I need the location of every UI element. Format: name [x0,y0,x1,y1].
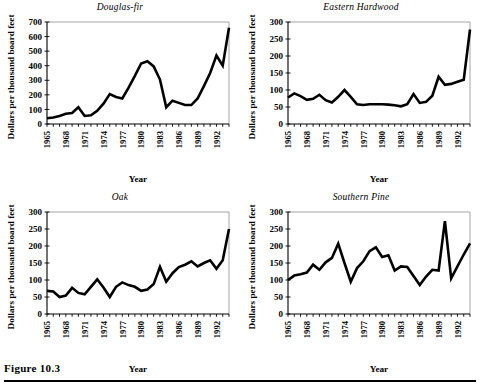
svg-text:1983: 1983 [155,321,165,338]
svg-text:1989: 1989 [434,131,444,148]
svg-text:1989: 1989 [193,131,203,148]
svg-text:1986: 1986 [174,130,184,148]
svg-text:1980: 1980 [377,321,387,338]
chart-panel-eastern-hardwood: Eastern Hardwood 05010015020025030019651… [241,0,481,190]
svg-text:1980: 1980 [136,321,146,338]
svg-text:Year: Year [370,174,388,184]
svg-text:150: 150 [270,258,284,268]
svg-text:1974: 1974 [99,320,109,338]
svg-text:0: 0 [279,309,284,319]
svg-text:1983: 1983 [396,321,406,338]
svg-text:1983: 1983 [396,131,406,148]
svg-text:1965: 1965 [283,321,293,338]
svg-text:1989: 1989 [193,321,203,338]
svg-text:300: 300 [270,207,284,217]
svg-text:0: 0 [279,119,284,129]
svg-text:1977: 1977 [359,320,369,338]
svg-text:100: 100 [29,105,43,115]
svg-text:0: 0 [38,119,43,129]
svg-text:1974: 1974 [340,130,350,148]
svg-text:1992: 1992 [212,131,222,148]
svg-text:1968: 1968 [302,320,312,338]
figure-container: Douglas-fir 0100200300400500600700196519… [0,0,481,388]
svg-text:0: 0 [38,309,43,319]
svg-text:Dollars per thousand board fee: Dollars per thousand board feet [6,204,16,330]
chart-svg-douglas-fir: 0100200300400500600700196519681971197419… [0,0,240,190]
svg-text:200: 200 [270,241,284,251]
svg-text:150: 150 [270,68,284,78]
svg-text:1992: 1992 [453,131,463,148]
svg-text:1977: 1977 [118,130,128,148]
svg-text:1971: 1971 [321,321,331,338]
svg-text:1983: 1983 [155,131,165,148]
svg-text:1965: 1965 [42,321,52,338]
svg-text:50: 50 [33,292,43,302]
figure-caption: Figure 10.3 [4,362,60,374]
chart-svg-eastern-hardwood: 0501001502002503001965196819711974197719… [241,0,481,190]
svg-text:200: 200 [29,241,43,251]
svg-text:300: 300 [270,17,284,27]
svg-text:1968: 1968 [61,320,71,338]
svg-text:1980: 1980 [377,131,387,148]
svg-text:400: 400 [29,61,43,71]
svg-text:200: 200 [270,51,284,61]
svg-text:Year: Year [129,174,147,184]
svg-text:1971: 1971 [80,131,90,148]
svg-text:100: 100 [270,85,284,95]
svg-text:150: 150 [29,258,43,268]
svg-text:100: 100 [29,275,43,285]
svg-text:1977: 1977 [118,320,128,338]
chart-svg-southern-pine: 0501001502002503001965196819711974197719… [241,190,481,380]
svg-text:Dollars per thousand board fee: Dollars per thousand board feet [247,204,257,330]
svg-text:50: 50 [274,292,284,302]
svg-text:700: 700 [29,17,43,27]
svg-text:250: 250 [270,224,284,234]
svg-text:1965: 1965 [42,131,52,148]
svg-text:1974: 1974 [340,320,350,338]
svg-text:200: 200 [29,90,43,100]
svg-text:300: 300 [29,75,43,85]
svg-text:1989: 1989 [434,321,444,338]
chart-panel-southern-pine: Southern Pine 05010015020025030019651968… [241,190,481,380]
chart-panel-douglas-fir: Douglas-fir 0100200300400500600700196519… [0,0,240,190]
svg-text:250: 250 [270,34,284,44]
svg-text:1992: 1992 [212,321,222,338]
svg-text:300: 300 [29,207,43,217]
svg-text:100: 100 [270,275,284,285]
svg-text:1965: 1965 [283,131,293,148]
caption-divider [4,380,476,382]
svg-text:Year: Year [370,364,388,374]
svg-text:1980: 1980 [136,131,146,148]
svg-text:1971: 1971 [80,321,90,338]
chart-svg-oak: 0501001502002503001965196819711974197719… [0,190,240,380]
svg-text:1986: 1986 [415,320,425,338]
svg-text:1971: 1971 [321,131,331,148]
svg-text:1974: 1974 [99,130,109,148]
svg-text:600: 600 [29,32,43,42]
svg-text:1986: 1986 [415,130,425,148]
svg-text:Dollars per thousand board fee: Dollars per thousand board feet [6,14,16,140]
svg-text:1968: 1968 [302,130,312,148]
chart-panel-oak: Oak 050100150200250300196519681971197419… [0,190,240,380]
svg-text:Year: Year [129,364,147,374]
svg-text:250: 250 [29,224,43,234]
svg-text:50: 50 [274,102,284,112]
svg-text:1986: 1986 [174,320,184,338]
svg-text:1968: 1968 [61,130,71,148]
svg-text:1977: 1977 [359,130,369,148]
svg-text:500: 500 [29,46,43,56]
svg-text:1992: 1992 [453,321,463,338]
svg-text:Dollars per thousand board fee: Dollars per thousand board feet [247,14,257,140]
